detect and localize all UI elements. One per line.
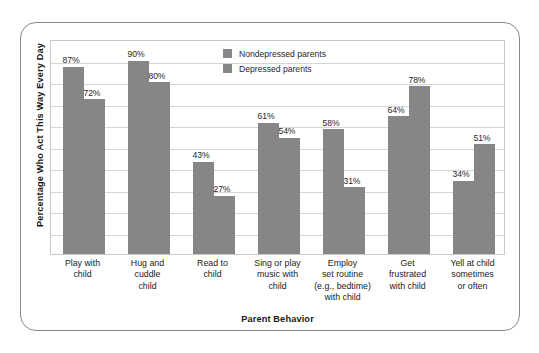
bar-value-label: 80% [149,71,176,81]
bar-depressed[interactable] [474,144,495,254]
bar-group: 90%80% [128,41,170,254]
bar-value-label: 27% [214,184,241,194]
legend-swatch-icon [223,64,232,73]
bar-nondepressed[interactable] [453,181,474,254]
legend-label: Depressed parents [239,64,312,74]
bar-value-label: 90% [123,49,150,59]
bar-nondepressed[interactable] [258,123,279,254]
bar-value-label: 58% [318,118,345,128]
bar-group: 87%72% [63,41,105,254]
x-tick-label: Getfrustratedwith child [374,258,442,292]
bar-nondepressed[interactable] [63,67,84,254]
bar-value-label: 64% [383,105,410,115]
bar-nondepressed[interactable] [323,129,344,254]
bar-nondepressed[interactable] [388,116,409,254]
bar-depressed[interactable] [279,138,300,254]
plot-area: 87%72%90%80%43%27%61%54%58%31%64%78%34%5… [50,40,505,255]
x-tick-label: Sing or playmusic withchild [244,258,312,292]
x-tick-label: Play withchild [49,258,117,281]
x-axis-tick-labels: Play withchildHug andcuddlechildRead toc… [50,258,505,316]
x-tick-label: Read tochild [179,258,247,281]
chart-legend: Nondepressed parentsDepressed parents [223,47,326,77]
legend-swatch-icon [223,49,232,58]
legend-item[interactable]: Nondepressed parents [223,47,326,60]
bar-value-label: 31% [344,176,371,186]
bar-value-label: 72% [84,88,111,98]
bar-nondepressed[interactable] [193,162,214,254]
bar-value-label: 78% [409,75,436,85]
legend-item[interactable]: Depressed parents [223,62,326,75]
bar-value-label: 43% [188,150,215,160]
y-axis-title: Percentage Who Act This Way Every Day [35,25,45,245]
bar-group: 58%31% [323,41,365,254]
bar-depressed[interactable] [214,196,235,254]
x-axis-title: Parent Behavior [50,314,505,324]
x-tick-label: Employset routine(e.g., bedtime)with chi… [309,258,377,304]
bar-group: 34%51% [453,41,495,254]
bar-depressed[interactable] [84,99,105,254]
bar-depressed[interactable] [409,86,430,254]
bar-value-label: 61% [253,111,280,121]
bar-nondepressed[interactable] [128,61,149,255]
bar-value-label: 54% [279,126,306,136]
x-tick-label: Hug andcuddlechild [114,258,182,292]
bar-value-label: 87% [58,55,85,65]
x-tick-label: Yell at childsometimesor often [439,258,507,292]
bar-depressed[interactable] [149,82,170,254]
chart-figure: Percentage Who Act This Way Every Day 87… [0,0,539,353]
bar-depressed[interactable] [344,187,365,254]
bar-value-label: 34% [448,169,475,179]
bar-group: 64%78% [388,41,430,254]
legend-label: Nondepressed parents [239,49,326,59]
bar-value-label: 51% [474,133,501,143]
